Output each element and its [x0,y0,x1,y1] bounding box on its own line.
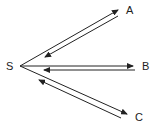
edge-a-to-s [45,16,118,57]
edge-s-to-a [20,10,118,66]
edge-c-to-s [39,80,121,118]
node-label-c: C [135,112,143,123]
edge-s-to-c [20,66,127,114]
node-label-a: A [126,5,133,16]
node-label-b: B [142,61,149,72]
node-label-s: S [6,61,13,72]
